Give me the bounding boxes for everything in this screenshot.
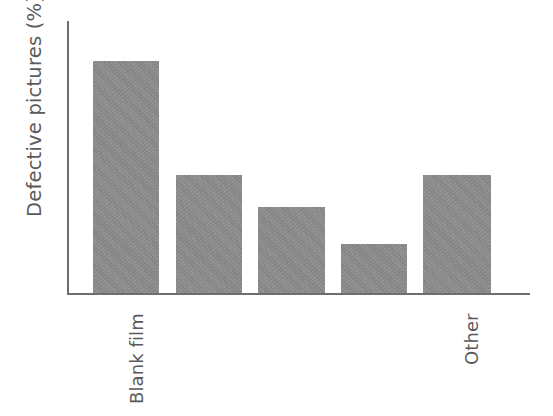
y-axis-line [67, 21, 69, 295]
bar-chart: Defective pictures (%) Blank film Other [0, 0, 553, 416]
bar-category-4 [341, 244, 407, 293]
bar-other [423, 175, 491, 293]
bar-category-3 [258, 207, 325, 293]
y-axis-title: Defective pictures (%) [12, 0, 56, 256]
bar-blank-film [93, 61, 159, 293]
x-axis-line [67, 293, 530, 295]
x-tick-label-other: Other [461, 313, 482, 365]
x-tick-label-blank-film: Blank film [126, 313, 147, 404]
bar-category-2 [176, 175, 242, 293]
